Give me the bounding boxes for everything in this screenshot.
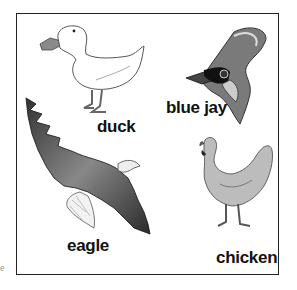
- chicken-illustration: [192, 136, 276, 236]
- eagle-label: eagle: [67, 236, 109, 256]
- blue-jay-label: blue jay: [166, 98, 227, 118]
- chicken-label: chicken: [216, 248, 277, 268]
- eagle-illustration: [24, 94, 164, 244]
- cropped-text-fragment: e: [0, 262, 4, 273]
